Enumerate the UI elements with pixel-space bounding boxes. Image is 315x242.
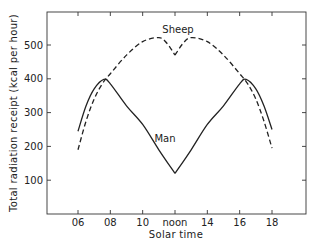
y-axis-title: Total radiation receipt (kcal per hour): [8, 14, 19, 213]
y-tick-label: 200: [24, 141, 43, 152]
x-tick-label: 16: [233, 217, 246, 228]
x-tick-label: 18: [266, 217, 279, 228]
y-tick-label: 500: [24, 40, 43, 51]
man-line: [175, 79, 272, 173]
x-tick-label: 10: [136, 217, 149, 228]
x-axis: 060810noon141618: [72, 12, 279, 228]
x-tick-label: noon: [163, 217, 188, 228]
x-tick-label: 06: [72, 217, 85, 228]
series-lines: [78, 38, 272, 174]
y-tick-label: 300: [24, 107, 43, 118]
radiation-chart: 100200300400500 060810noon141618 Sheep M…: [0, 0, 315, 242]
y-tick-label: 400: [24, 73, 43, 84]
man-series-label: Man: [154, 133, 175, 144]
y-axis: 100200300400500: [24, 40, 306, 186]
sheep-series-label: Sheep: [162, 24, 193, 35]
x-axis-title: Solar time: [149, 229, 203, 240]
man-line: [78, 79, 175, 173]
y-tick-label: 100: [24, 175, 43, 186]
x-tick-label: 14: [201, 217, 214, 228]
x-tick-label: 08: [104, 217, 117, 228]
